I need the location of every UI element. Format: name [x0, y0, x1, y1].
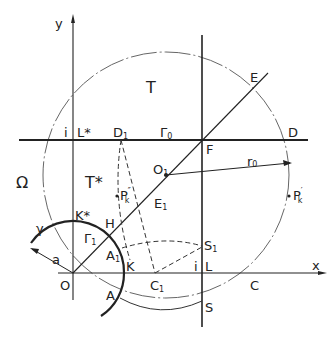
label-D: D [288, 125, 298, 140]
label-H: H [105, 216, 115, 231]
label-i-top: i [64, 125, 68, 140]
label-C1: C1 [150, 278, 164, 294]
label-L: L [205, 259, 213, 274]
label-y-axis: y [55, 16, 63, 31]
y-axis-arrow [71, 14, 75, 23]
point-Pk2 [115, 194, 118, 197]
label-region-T-star: T* [84, 173, 103, 192]
label-x-axis: x [312, 258, 320, 273]
label-A: A [106, 288, 115, 303]
radius-r0 [166, 163, 290, 175]
label-region-T: T [145, 78, 156, 97]
arc-AS [120, 298, 202, 310]
label-C: C [250, 278, 259, 293]
label-gamma: γ [36, 221, 44, 236]
point-Pk1 [287, 194, 290, 197]
label-region-omega: Ω [16, 173, 28, 192]
label-F: F [206, 142, 213, 157]
label-i-bottom: i [194, 259, 198, 274]
radius-a-arrow [30, 248, 39, 254]
geometric-diagram: y x O T T* Ω i L* D1 Γ0 D E F r0 O1 E1 P… [0, 0, 336, 345]
label-E: E [250, 70, 258, 85]
label-r0: r0 [247, 154, 257, 169]
label-K-star: K* [75, 208, 91, 223]
label-S1: S1 [204, 238, 217, 254]
label-K: K [126, 259, 135, 274]
label-Pk2: P″k [120, 187, 131, 205]
label-Pk1: P′k [293, 187, 303, 205]
label-gamma0: Γ0 [160, 125, 172, 141]
dashed-D1-C1 [121, 140, 155, 273]
radius-r0-arrow [283, 160, 292, 166]
label-E1: E1 [154, 196, 167, 212]
label-origin: O [60, 278, 70, 293]
label-D1: D1 [113, 125, 128, 141]
dashed-A1-S1 [122, 241, 202, 248]
label-O1: O1 [153, 162, 168, 178]
label-S: S [205, 300, 213, 315]
label-a: a [52, 252, 60, 267]
label-A1: A1 [106, 248, 120, 264]
label-L-star: L* [77, 125, 91, 140]
label-Gamma1: Γ1 [84, 231, 96, 247]
